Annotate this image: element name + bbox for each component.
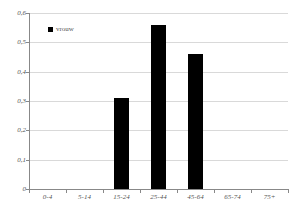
x-axis-label: 25-44 (140, 193, 177, 201)
y-axis-label: 0 (0, 185, 26, 193)
x-axis-label: 65-74 (214, 193, 251, 201)
x-axis-label: 15-24 (103, 193, 140, 201)
gridline (29, 13, 288, 14)
y-axis-label: 0,6 (0, 9, 26, 17)
legend-swatch-vrouw (48, 27, 53, 32)
bar-chart: 00,10,20,30,40,50,60-45-1415-2425-4445-6… (0, 0, 306, 217)
x-axis-line (29, 189, 289, 190)
y-axis-label: 0,2 (0, 126, 26, 134)
x-axis-tick (288, 190, 289, 193)
y-axis-line (29, 13, 30, 190)
legend-label-vrouw: vrouw (56, 25, 74, 33)
x-axis-label: 0-4 (29, 193, 66, 201)
x-axis-label: 45-64 (177, 193, 214, 201)
legend: vrouw (48, 25, 74, 33)
y-axis-label: 0,4 (0, 68, 26, 76)
bar-15-24 (114, 98, 129, 189)
y-axis-label: 0,1 (0, 156, 26, 164)
x-axis-label: 75+ (251, 193, 288, 201)
y-axis-label: 0,5 (0, 38, 26, 46)
y-axis-label: 0,3 (0, 97, 26, 105)
bar-25-44 (151, 25, 166, 189)
bar-45-64 (188, 54, 203, 189)
x-axis-label: 5-14 (66, 193, 103, 201)
